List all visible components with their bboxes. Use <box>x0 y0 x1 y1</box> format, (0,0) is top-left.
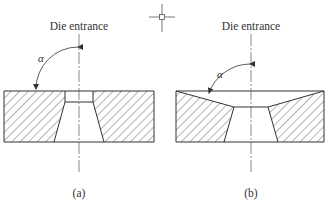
die-section-right <box>268 91 324 142</box>
panel-b: α Die entrance (b) <box>176 20 324 200</box>
die-diagram: α Die entrance (a) α Die entrance (b) <box>0 0 327 209</box>
panel-title-a: Die entrance <box>50 20 108 32</box>
angle-arc-b <box>209 64 250 93</box>
die-section-right <box>93 91 154 142</box>
panel-a: α Die entrance (a) <box>4 20 154 200</box>
caption-a: (a) <box>73 187 86 200</box>
panel-title-b: Die entrance <box>222 20 280 32</box>
angle-label-b: α <box>217 68 223 80</box>
caption-b: (b) <box>244 187 258 200</box>
die-section-left <box>4 91 65 142</box>
crosshair-cursor-icon <box>149 4 175 32</box>
die-section-left <box>176 91 234 142</box>
angle-label-a: α <box>38 52 44 64</box>
